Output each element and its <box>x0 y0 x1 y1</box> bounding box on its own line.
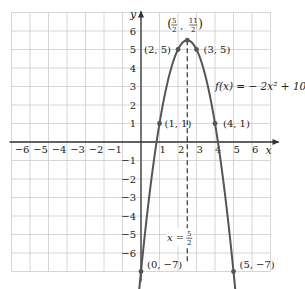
symmetry-num: 5 <box>187 230 191 238</box>
y-tick-label: 2 <box>130 100 136 111</box>
point-label: (5, −7) <box>240 259 275 270</box>
point-label: (1, 1) <box>165 118 192 129</box>
symmetry-den: 2 <box>187 239 191 247</box>
y-tick-label: 5 <box>130 44 136 55</box>
point-label: (2, 5) <box>144 44 171 55</box>
point-marker <box>231 269 236 274</box>
axis-of-symmetry-label: x =52 <box>166 228 193 247</box>
paren-close: ) <box>198 17 203 31</box>
function-label: f(x) = − 2x² + 10x − 7 <box>214 80 305 92</box>
x-tick-label: 1 <box>160 144 166 155</box>
x-axis-label: x <box>266 144 273 157</box>
labeled-points: (0, −7)(1, 1)(2, 5)(3, 5)(4, 1)(5, −7) <box>139 38 275 274</box>
vertex-y-num: 11 <box>189 17 198 25</box>
y-tick-label: 6 <box>130 26 136 37</box>
x-tick-label: −4 <box>52 144 67 155</box>
y-axis-arrow-icon <box>138 11 144 18</box>
point-marker <box>176 47 181 52</box>
y-axis-label: y <box>129 8 137 21</box>
y-tick-label: −1 <box>121 155 136 166</box>
y-tick-label: −5 <box>121 229 136 240</box>
x-axis-arrow-icon <box>273 139 280 145</box>
x-tick-label: 3 <box>197 144 203 155</box>
y-tick-label: 3 <box>130 81 136 92</box>
point-label: (0, −7) <box>147 259 182 270</box>
point-label: (4, 1) <box>223 118 250 129</box>
symmetry-eq: x = <box>167 232 184 243</box>
y-tick-label: −3 <box>121 192 136 203</box>
x-tick-label: −6 <box>15 144 30 155</box>
comma: , <box>180 20 183 31</box>
x-tick-label: −5 <box>33 144 48 155</box>
y-tick-label: −4 <box>121 211 136 222</box>
x-tick-label: −2 <box>89 144 104 155</box>
vertex-x-num: 5 <box>172 17 176 25</box>
y-tick-label: 1 <box>130 118 136 129</box>
point-marker <box>185 38 190 43</box>
x-tick-label: −3 <box>70 144 85 155</box>
y-tick-label: 4 <box>130 63 136 74</box>
x-tick-label: 2 <box>178 144 184 155</box>
x-tick-label: 5 <box>234 144 240 155</box>
vertex-x-den: 2 <box>172 26 176 34</box>
vertex-y-den: 2 <box>191 26 195 34</box>
parabola-chart: −6−5−4−3−2−1123456654321−1−2−3−4−5−6 (0,… <box>0 0 305 289</box>
vertex-label: (52,112) <box>167 17 203 34</box>
point-marker <box>213 121 218 126</box>
y-tick-label: −6 <box>121 248 136 259</box>
point-marker <box>157 121 162 126</box>
y-tick-label: −2 <box>121 174 136 185</box>
x-tick-label: −1 <box>107 144 122 155</box>
point-label: (3, 5) <box>204 44 231 55</box>
point-marker <box>139 269 144 274</box>
x-tick-label: 6 <box>252 144 258 155</box>
point-marker <box>194 47 199 52</box>
